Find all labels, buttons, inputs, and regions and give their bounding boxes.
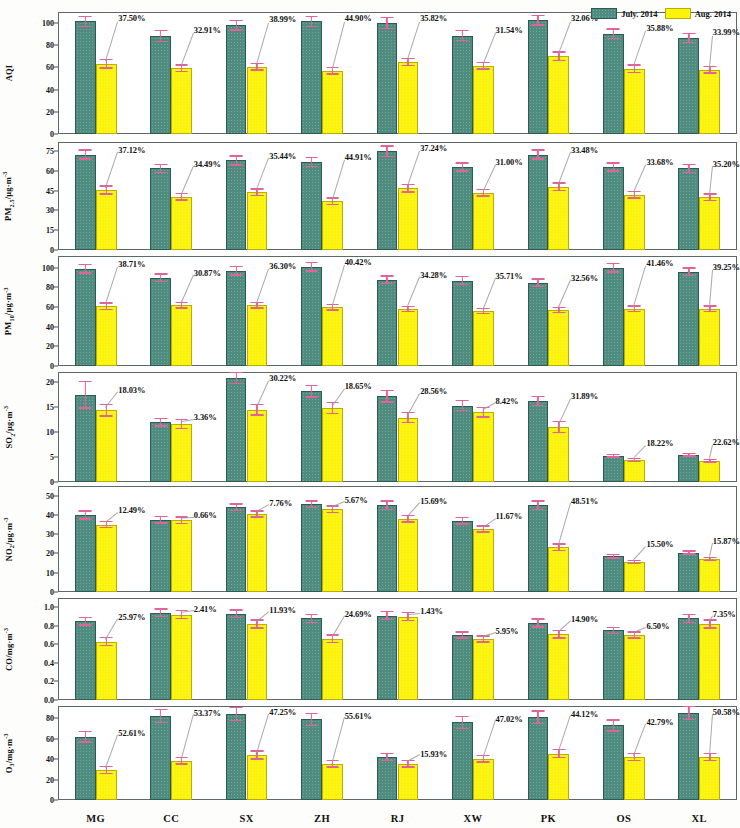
error-bar [79,149,92,160]
error-bar [607,263,620,273]
chart-panel: SO2/μg·m-30510152018.03%3.36%30.22%18.65… [0,372,739,482]
error-bar-cap-bottom [154,722,167,723]
error-bar-cap-bottom [79,407,92,408]
bar-july [678,272,699,366]
error-bar-cap-bottom [100,415,113,416]
bar-group [58,486,133,592]
error-bar-cap-bottom [477,68,490,69]
error-bar-cap-bottom [175,307,188,308]
bar-aug [548,634,569,700]
bar-july [226,614,247,700]
chart-panel: O3/mg·m-302040608052.61%53.37%47.25%55.6… [0,706,739,800]
error-bar [682,550,695,555]
bar-aug [96,525,117,592]
bar-aug [247,305,268,366]
bar-aug [473,759,494,800]
y-axis-title: O3/mg·m-3 [0,706,18,800]
y-axis-title: PM2.5/μg·m-3 [0,142,18,250]
error-bar [251,63,264,71]
bar-july [377,151,398,250]
bar-aug [322,764,343,800]
bar-july [603,456,624,483]
error-bar-cap-bottom [552,312,565,313]
error-bar-cap-bottom [381,760,394,761]
bar-group [209,256,284,366]
error-bar-cap-bottom [531,286,544,287]
error-bar-cap-bottom [251,758,264,759]
bar-group [209,372,284,482]
plot-area: 38.71%30.87%36.30%40.42%34.28%35.71%32.5… [58,256,737,366]
error-bar [456,276,469,286]
bar-group [58,256,133,366]
error-bar [456,30,469,41]
bar-aug [322,509,343,592]
y-axis-title: SO2/μg·m-3 [0,372,18,482]
reduction-percent-label: 15.87% [713,536,740,546]
bar-july [150,422,171,482]
y-tick-label: 60 [46,303,54,312]
error-bar [682,164,695,173]
bar-aug [548,187,569,250]
plot-inner: 18.03%3.36%30.22%18.65%28.56%8.42%31.89%… [58,372,737,482]
y-tick-label: 30 [46,530,54,539]
error-bar-cap-bottom [531,24,544,25]
error-bar [531,396,544,406]
error-bar [531,710,544,724]
error-bar-cap-top [381,500,394,501]
error-bar-cap-top [154,30,167,31]
plot-inner: 52.61%53.37%47.25%55.61%15.93%47.02%44.1… [58,706,737,800]
error-bar-cap-top [607,263,620,264]
error-bar [628,191,641,199]
error-bar-cap-top [531,710,544,711]
x-axis-categories: MGCCSXZHRJXWPKOSXL [58,804,737,828]
error-bar-cap-bottom [381,156,394,157]
error-bar-cap-bottom [251,69,264,70]
error-bar-cap-bottom [79,518,92,519]
bar-july [528,20,549,134]
plot-inner: 38.71%30.87%36.30%40.42%34.28%35.71%32.5… [58,256,737,366]
error-bar-cap-bottom [100,645,113,646]
bar-aug [548,547,569,592]
error-bar-cap-bottom [531,509,544,510]
error-bar [154,164,167,173]
error-bar-cap-bottom [531,723,544,724]
bar-aug [473,639,494,700]
error-bar-cap-bottom [682,455,695,456]
x-axis-category-label: MG [86,813,105,824]
bar-july [377,396,398,482]
reduction-percent-label: 50.58% [713,707,740,717]
y-tick-label: 40 [46,510,54,519]
error-bar-cap-bottom [79,272,92,273]
reduction-percent-label: 33.99% [713,27,740,37]
bar-aug [247,192,268,250]
bar-aug [171,520,192,592]
plot-area: 37.50%32.91%38.99%44.90%35.82%31.54%32.0… [58,12,737,134]
bar-group [209,12,284,134]
bar-july [678,553,699,593]
error-bar [531,500,544,510]
error-bar-cap-bottom [456,284,469,285]
error-bar-cap-top [682,33,695,34]
bar-aug [473,529,494,592]
error-bar-cap-bottom [628,563,641,564]
error-bar-cap-bottom [251,414,264,415]
x-axis-category-label: RJ [391,813,405,824]
error-bar-cap-top [79,510,92,511]
error-bar-cap-top [456,631,469,632]
error-bar-cap-top [381,17,394,18]
error-bar-cap-bottom [456,637,469,638]
error-bar-cap-top [607,454,620,455]
bar-group [209,706,284,800]
error-bar [154,608,167,617]
error-bar-cap-bottom [175,199,188,200]
error-bar-cap-bottom [230,29,243,30]
error-bar-cap-top [154,516,167,517]
bar-july [603,34,624,134]
bar-aug [699,624,720,700]
error-bar-cap-top [682,164,695,165]
error-bar-cap-bottom [456,728,469,729]
y-tick-label: 0.6 [44,640,54,649]
x-axis-category-label: XW [463,813,482,824]
error-bar-cap-bottom [79,26,92,27]
bar-aug [247,755,268,800]
